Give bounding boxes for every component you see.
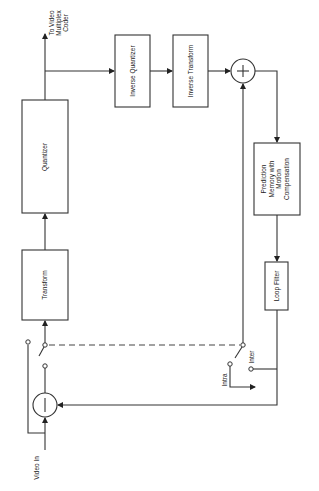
output-label-line-3: Coder bbox=[62, 13, 69, 32]
loop-filter-block: Loop Filter bbox=[265, 262, 288, 310]
transform-label: Transform bbox=[41, 270, 48, 299]
inverse-quantizer-block: Inverse Quantizer bbox=[115, 35, 150, 107]
switch-pivot-right bbox=[241, 343, 245, 347]
switch-contact-intra bbox=[228, 362, 232, 366]
loop-filter-label: Loop Filter bbox=[273, 270, 281, 302]
quantizer-label: Quantizer bbox=[41, 142, 49, 171]
inverse-transform-block: Inverse Transform bbox=[173, 35, 208, 107]
switch-contact-subtract bbox=[43, 364, 47, 368]
forward-path bbox=[28, 34, 277, 450]
inverse-transform-label: Inverse Transform bbox=[187, 45, 194, 97]
output-label-line-1: To Video bbox=[48, 10, 55, 36]
inter-label: Inter bbox=[248, 350, 255, 364]
prediction-memory-block: Prediction Memory with Motion Compensati… bbox=[254, 143, 300, 215]
switch-contact-inter bbox=[249, 367, 253, 371]
adder-node bbox=[231, 59, 255, 83]
output-label: To Video Multiplex Coder bbox=[48, 9, 69, 35]
inverse-quantizer-label: Inverse Quantizer bbox=[129, 45, 137, 97]
transform-block: Transform bbox=[22, 250, 68, 320]
switch-pivot-left bbox=[43, 343, 47, 347]
intra-inter-switch-left bbox=[26, 340, 47, 368]
video-in-label: Video In bbox=[33, 456, 40, 480]
prediction-memory-label-1: Prediction bbox=[260, 164, 267, 193]
quantizer-block: Quantizer bbox=[22, 100, 68, 213]
switch-contact-bypass bbox=[26, 340, 30, 344]
prediction-memory-label-3: Motion bbox=[275, 169, 282, 189]
intra-label: Intra bbox=[221, 373, 228, 386]
subtractor-node bbox=[33, 393, 57, 417]
prediction-memory-label-4: Compensation bbox=[283, 158, 291, 200]
encoder-diagram: Quantizer Transform Inverse Quantizer In… bbox=[0, 0, 319, 491]
